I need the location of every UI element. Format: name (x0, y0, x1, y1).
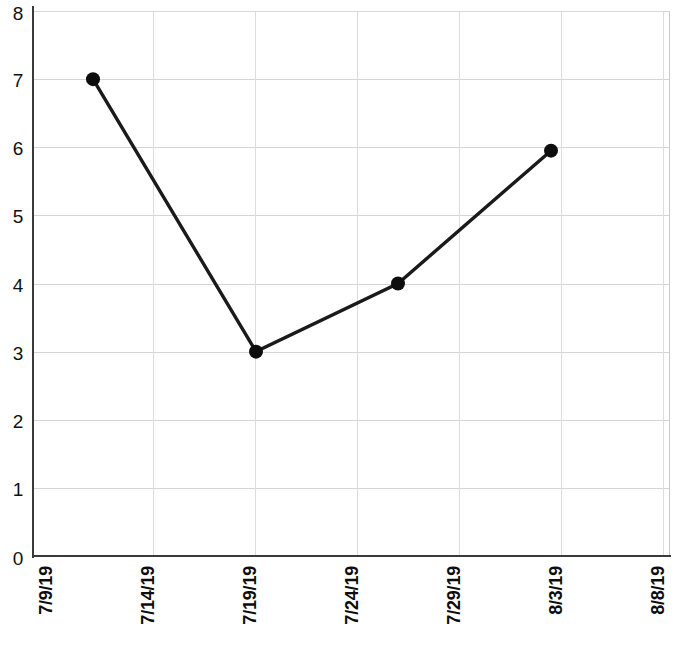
x-tick-label-6: 8/3/19 (546, 566, 567, 615)
x-axis-tick-labels: 7/9/19 7/14/19 7/19/19 7/24/19 7/29/19 8… (0, 0, 680, 654)
x-tick-label-7: 8/8/19 (648, 566, 669, 615)
x-tick-label-3: 7/19/19 (240, 566, 261, 625)
x-tick-label-5: 7/29/19 (444, 566, 465, 625)
x-tick-label-1: 7/9/19 (36, 566, 57, 615)
x-tick-label-2: 7/14/19 (138, 566, 159, 625)
line-chart: 8 7 6 5 4 3 2 1 0 7/9/19 7/14/19 7/19/19… (0, 0, 680, 654)
x-tick-label-4: 7/24/19 (342, 566, 363, 625)
